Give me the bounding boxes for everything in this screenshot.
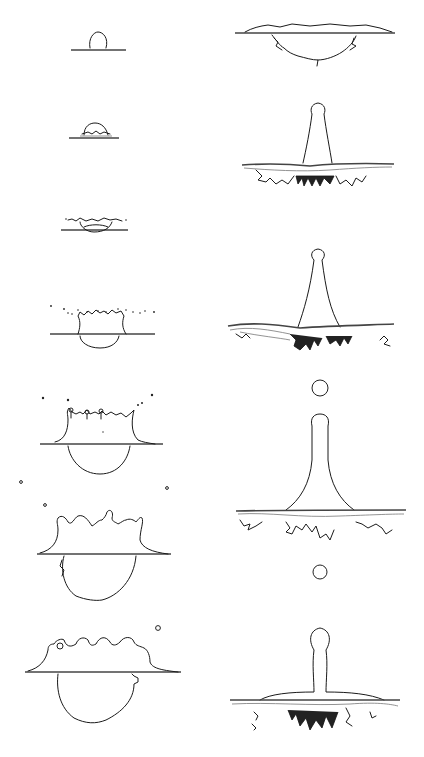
spray-droplets xyxy=(50,305,155,315)
frame-9-central-jet xyxy=(242,103,394,186)
frame-8-crater-retracting xyxy=(235,24,395,66)
frame-5-crown-rim-droplets xyxy=(40,394,163,474)
frame-4-crown-spray xyxy=(50,305,155,348)
frame-6-crown-expanding xyxy=(20,481,171,601)
frame-3-ejecta-sheet xyxy=(61,218,128,232)
frame-12-jet-second-pinch-off xyxy=(230,565,400,730)
frame-1-drop-contact xyxy=(71,32,126,50)
frame-7-crown-collapsing xyxy=(25,626,181,723)
frame-11-jet-pinch-off xyxy=(236,380,406,540)
frame-2-initial-spreading xyxy=(69,123,119,138)
drop-impact-figure xyxy=(0,0,424,757)
frame-10-jet-vortex xyxy=(228,249,394,350)
